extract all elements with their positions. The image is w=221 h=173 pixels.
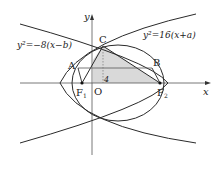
point-A-label: A bbox=[67, 60, 76, 71]
point-C-label: C bbox=[99, 34, 107, 45]
x-axis-label: x bbox=[203, 86, 209, 97]
x-axis-arrow-icon bbox=[205, 81, 211, 85]
origin-label: O bbox=[94, 86, 102, 97]
tick-label-4: 4 bbox=[103, 75, 109, 84]
point-F2 bbox=[158, 81, 161, 84]
diagram-canvas: y x O C A B F1 F2 4 y²=−8(x−b) y²=16(x+a… bbox=[0, 0, 221, 173]
equation-left-parabola: y²=−8(x−b) bbox=[16, 40, 72, 50]
segment-A-F1 bbox=[78, 68, 82, 83]
y-axis-label: y bbox=[83, 11, 90, 22]
point-F1-label: F1 bbox=[76, 87, 87, 99]
point-F1 bbox=[80, 81, 83, 84]
equation-right-parabola: y²=16(x+a) bbox=[142, 30, 196, 40]
point-B-label: B bbox=[153, 57, 160, 68]
y-axis-arrow-icon bbox=[90, 14, 94, 20]
point-F2-label: F2 bbox=[157, 87, 168, 99]
